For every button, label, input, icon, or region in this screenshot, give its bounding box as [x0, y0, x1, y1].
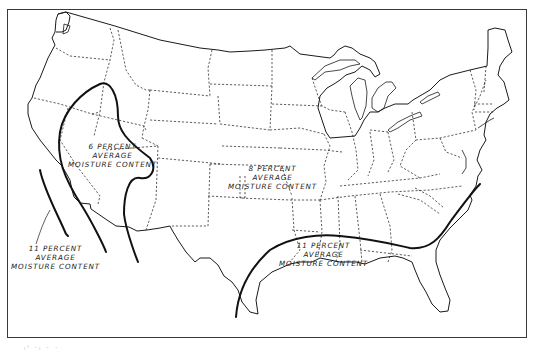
zone-label-line3: MOISTURE CONTENT — [11, 262, 100, 271]
zone-label-line2: AVERAGE — [11, 253, 100, 262]
zone-label-line1: 6 PERCENT — [68, 142, 157, 151]
zone-label-line1: 11 PERCENT — [11, 244, 100, 253]
zone-label-line1: 8 PERCENT — [228, 164, 317, 173]
zone-label-line2: AVERAGE — [279, 250, 368, 259]
zone-boundaries — [40, 83, 153, 262]
zone-label-line3: MOISTURE CONTENT — [228, 182, 317, 191]
faded-caption: ᵢᴵ ·ᵢ · · — [24, 344, 59, 352]
label-leader-line — [36, 210, 50, 244]
zone-label-line3: MOISTURE CONTENT — [279, 259, 368, 268]
zone-label-11-percent-southeast: 11 PERCENT AVERAGE MOISTURE CONTENT — [279, 241, 368, 268]
zone-label-line3: MOISTURE CONTENT — [68, 160, 157, 169]
zone-label-6-percent: 6 PERCENT AVERAGE MOISTURE CONTENT — [68, 142, 157, 169]
zone-label-line2: AVERAGE — [68, 151, 157, 160]
zone-label-8-percent: 8 PERCENT AVERAGE MOISTURE CONTENT — [228, 164, 317, 191]
zone-label-line1: 11 PERCENT — [279, 241, 368, 250]
zone-label-line2: AVERAGE — [228, 173, 317, 182]
zone-label-11-percent-west: 11 PERCENT AVERAGE MOISTURE CONTENT — [11, 244, 100, 271]
